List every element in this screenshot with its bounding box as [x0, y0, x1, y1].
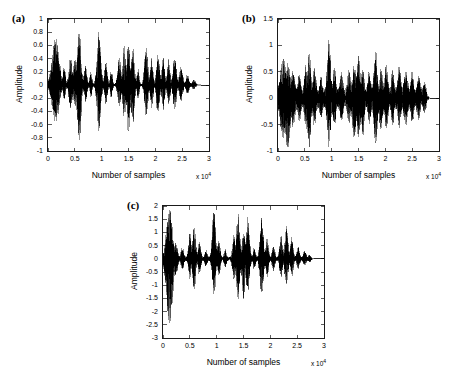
panel-a-y-tick-label: -0.4 — [21, 107, 43, 114]
panel-b-x-tick-label: 0 — [268, 155, 288, 162]
panel-b-x-tick-label: 1 — [322, 155, 342, 162]
panel-a-x-exponent: x 104 — [196, 171, 211, 180]
panel-c-y-tick-label: 1.5 — [136, 215, 158, 222]
panel-c-x-tick-label: 1 — [207, 342, 227, 349]
panel-c-y-tick-label: -0.5 — [136, 268, 158, 275]
panel-c-y-tick-label: -1.5 — [136, 294, 158, 301]
panel-c-x-tick-label: 2 — [260, 342, 280, 349]
panel-a-x-tick-label: 3 — [199, 155, 219, 162]
panel-b-x-exponent: x 104 — [426, 171, 441, 180]
panel-b-y-tick-label: 0.5 — [251, 68, 273, 75]
panel-a-x-tick-label: 2.5 — [172, 155, 192, 162]
panel-b-y-tick-label: 0 — [251, 94, 273, 101]
panel-a-x-tick-label: 0 — [38, 155, 58, 162]
panel-c-x-tick-label: 1.5 — [234, 342, 254, 349]
panel-c-x-exponent: x 104 — [311, 358, 326, 367]
panel-a-y-tick-label: 0 — [21, 81, 43, 88]
panel-b-plot-area — [277, 18, 440, 152]
panel-b-y-tick-label: -0.5 — [251, 121, 273, 128]
panel-c-x-axis-label: Number of samples — [194, 357, 294, 367]
panel-c-y-tick-label: -2.5 — [136, 321, 158, 328]
panel-a-y-tick-label: 1 — [21, 15, 43, 22]
panel-a-x-tick-label: 2 — [145, 155, 165, 162]
panel-c-y-tick-label: -3 — [136, 334, 158, 341]
panel-c-y-tick-label: 0.5 — [136, 242, 158, 249]
panel-c-y-tick-label: 2 — [136, 202, 158, 209]
panel-a-y-tick-label: -0.2 — [21, 94, 43, 101]
panel-a-y-tick-label: -0.6 — [21, 121, 43, 128]
panel-c-y-tick-label: 1 — [136, 228, 158, 235]
panel-b-y-tick-label: 1 — [251, 41, 273, 48]
panel-c-x-tick-label: 0.5 — [180, 342, 200, 349]
panel-a-y-tick-label: 0.2 — [21, 68, 43, 75]
panel-a-x-tick-label: 0.5 — [65, 155, 85, 162]
panel-a-y-tick-label: 0.6 — [21, 41, 43, 48]
panel-a-x-tick-label: 1.5 — [119, 155, 139, 162]
panel-b-y-axis-label: Amplitude — [244, 54, 254, 114]
panel-b-x-tick-label: 1.5 — [349, 155, 369, 162]
panel-c-x-tick-label: 2.5 — [287, 342, 307, 349]
panel-b-x-tick-label: 0.5 — [295, 155, 315, 162]
panel-b-x-tick-label: 3 — [429, 155, 449, 162]
panel-a-y-tick-label: -1 — [21, 147, 43, 154]
panel-b-x-tick-label: 2.5 — [402, 155, 422, 162]
panel-a-y-tick-label: 0.4 — [21, 55, 43, 62]
panel-a-x-tick-label: 1 — [92, 155, 112, 162]
panel-b-x-tick-label: 2 — [375, 155, 395, 162]
panel-c-y-tick-label: -1 — [136, 281, 158, 288]
panel-c-x-tick-label: 3 — [314, 342, 334, 349]
panel-a-plot-area — [47, 18, 210, 152]
panel-c-x-tick-label: 0 — [153, 342, 173, 349]
panel-a-y-tick-label: -0.8 — [21, 134, 43, 141]
panel-b-x-axis-label: Number of samples — [309, 170, 409, 180]
panel-b-y-tick-label: -1 — [251, 147, 273, 154]
panel-b-y-tick-label: 1.5 — [251, 15, 273, 22]
panel-a-x-axis-label: Number of samples — [79, 170, 179, 180]
panel-c-y-tick-label: 0 — [136, 255, 158, 262]
panel-c-y-tick-label: -2 — [136, 308, 158, 315]
panel-c-plot-area — [162, 205, 325, 339]
panel-a-y-tick-label: 0.8 — [21, 28, 43, 35]
